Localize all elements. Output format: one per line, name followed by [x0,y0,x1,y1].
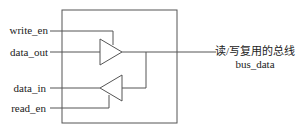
read-en-wire [50,95,109,108]
data-out-label: data_out [10,46,48,58]
bus-feedback-wire [122,52,146,88]
write-en-wire [50,31,113,45]
module-box [62,10,177,123]
read-en-label: read_en [11,102,46,114]
input-buffer-triangle [100,75,122,101]
write-en-label: write_en [10,24,49,36]
output-buffer-triangle [100,39,122,65]
bus-buffer-diagram: write_en data_out data_in read_en 读/写复用的… [0,0,300,134]
data-in-label: data_in [14,82,47,94]
bus-name-label: bus_data [235,58,274,70]
bus-description-label: 读/写复用的总线 [215,44,295,57]
